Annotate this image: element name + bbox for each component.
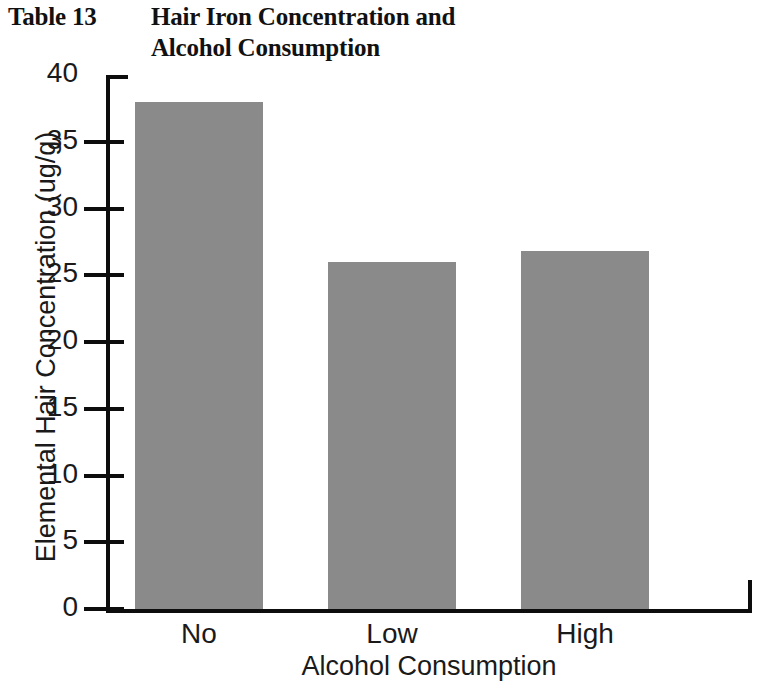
x-axis-category-label: Low <box>288 618 496 650</box>
plot-area <box>106 75 750 609</box>
x-axis-title: Alcohol Consumption <box>106 651 752 682</box>
x-axis-line <box>106 609 752 613</box>
x-axis-category-label: No <box>95 618 303 650</box>
y-axis-tick-label: 15 <box>0 393 78 421</box>
bar <box>521 251 649 609</box>
y-axis-tick-label: 20 <box>0 326 78 354</box>
bar <box>135 102 263 609</box>
y-axis-tick-label: 35 <box>0 126 78 154</box>
y-axis-tick-label: 0 <box>0 593 78 621</box>
y-axis-tick-label: 30 <box>0 193 78 221</box>
y-axis-tick-label: 10 <box>0 460 78 488</box>
figure-title-block: Table 13 Hair Iron Concentration and Alc… <box>8 2 753 63</box>
y-axis-tick-label: 25 <box>0 259 78 287</box>
table-number-label: Table 13 <box>8 2 151 33</box>
chart-title: Hair Iron Concentration and Alcohol Cons… <box>151 2 526 63</box>
y-axis-tick-label: 40 <box>0 59 78 87</box>
y-axis-tick-label: 5 <box>0 526 78 554</box>
bar-chart: Table 13 Hair Iron Concentration and Alc… <box>0 0 765 683</box>
bar <box>328 262 456 609</box>
x-axis-category-label: High <box>481 618 689 650</box>
